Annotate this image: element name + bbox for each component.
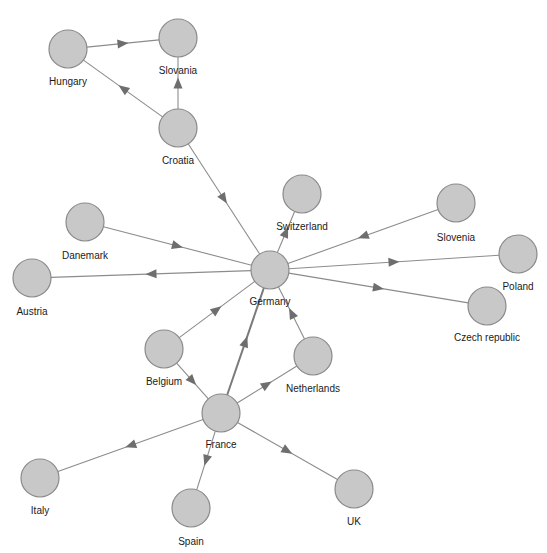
arrowhead-icon	[280, 444, 292, 453]
node-label: Switzerland	[276, 221, 328, 232]
arrowhead-icon	[174, 78, 183, 89]
edge-danemark-to-germany	[103, 227, 251, 265]
arrowhead-icon	[388, 258, 399, 267]
network-diagram: HungarySlovaniaCroatiaSwitzerlandGermany…	[0, 0, 547, 553]
node-label: Hungary	[49, 76, 87, 87]
node-label: France	[205, 439, 237, 450]
node-germany[interactable]: Germany	[249, 251, 290, 307]
node-italy[interactable]: Italy	[21, 459, 59, 516]
arrowhead-icon	[260, 382, 272, 392]
edge-germany-to-poland	[289, 255, 499, 269]
node-circle[interactable]	[437, 184, 475, 222]
arrowhead-icon	[119, 85, 131, 95]
node-circle[interactable]	[66, 203, 104, 241]
node-label: Germany	[249, 296, 290, 307]
edge-france-to-uk	[237, 422, 337, 479]
node-austria[interactable]: Austria	[13, 259, 51, 317]
node-circle[interactable]	[202, 394, 240, 432]
node-circle[interactable]	[159, 109, 197, 147]
node-poland[interactable]: Poland	[499, 235, 537, 292]
arrowhead-icon	[171, 240, 183, 249]
node-uk[interactable]: UK	[335, 470, 373, 527]
node-circle[interactable]	[468, 287, 506, 325]
node-circle[interactable]	[49, 30, 87, 68]
arrowhead-icon	[358, 230, 370, 238]
edge-croatia-to-germany	[188, 144, 259, 254]
node-croatia[interactable]: Croatia	[159, 109, 197, 166]
edge-croatia-to-hungary	[83, 60, 162, 117]
node-label: Belgium	[146, 376, 182, 387]
arrowhead-icon	[146, 269, 157, 278]
arrowhead-icon	[217, 192, 227, 204]
node-label: Croatia	[162, 155, 195, 166]
node-label: Slovania	[159, 65, 198, 76]
node-label: Danemark	[62, 250, 109, 261]
node-circle[interactable]	[172, 489, 210, 527]
node-slovenia[interactable]: Slovenia	[437, 184, 476, 243]
nodes-layer: HungarySlovaniaCroatiaSwitzerlandGermany…	[13, 19, 537, 547]
arrowhead-icon	[239, 336, 248, 348]
node-circle[interactable]	[283, 175, 321, 213]
node-circle[interactable]	[251, 251, 289, 289]
node-circle[interactable]	[145, 330, 183, 368]
node-france[interactable]: France	[202, 394, 240, 450]
node-label: Czech republic	[454, 332, 520, 343]
edge-france-to-italy	[58, 419, 203, 471]
node-circle[interactable]	[21, 459, 59, 497]
arrowhead-icon	[117, 40, 128, 49]
node-label: Slovenia	[437, 232, 476, 243]
node-label: UK	[347, 516, 361, 527]
node-circle[interactable]	[294, 337, 332, 375]
node-slovania[interactable]: Slovania	[159, 19, 198, 76]
node-label: Italy	[31, 505, 49, 516]
arrowhead-icon	[372, 283, 384, 292]
node-circle[interactable]	[335, 470, 373, 508]
node-circle[interactable]	[159, 19, 197, 57]
node-label: Poland	[502, 281, 533, 292]
node-danemark[interactable]: Danemark	[62, 203, 109, 261]
edge-hungary-to-slovania	[87, 40, 159, 49]
edge-belgium-to-germany	[179, 281, 255, 337]
node-hungary[interactable]: Hungary	[49, 30, 87, 87]
node-label: Netherlands	[286, 383, 340, 394]
node-netherlands[interactable]: Netherlands	[286, 337, 340, 394]
edge-netherlands-to-germany	[278, 287, 304, 339]
node-switzerland[interactable]: Switzerland	[276, 175, 328, 232]
edge-germany-to-switzerland	[277, 212, 294, 253]
arrowhead-icon	[203, 454, 212, 466]
node-circle[interactable]	[13, 259, 51, 297]
node-circle[interactable]	[499, 235, 537, 273]
edge-slovenia-to-germany	[288, 209, 438, 263]
arrowhead-icon	[210, 306, 222, 316]
node-label: Austria	[16, 306, 48, 317]
edge-germany-to-austria	[51, 269, 251, 278]
node-belgium[interactable]: Belgium	[145, 330, 183, 387]
node-label: Spain	[178, 536, 204, 547]
edge-germany-to-czech	[289, 273, 469, 303]
arrowhead-icon	[125, 439, 137, 447]
node-spain[interactable]: Spain	[172, 489, 210, 547]
node-czech[interactable]: Czech republic	[454, 287, 520, 343]
